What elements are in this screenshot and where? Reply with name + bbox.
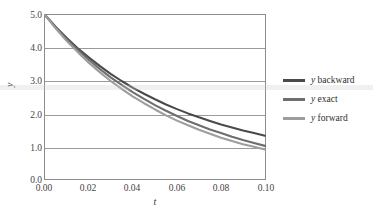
legend-label-y-exact: y exact [311, 94, 338, 105]
series-lines [45, 15, 265, 179]
legend-swatch-y-exact [283, 98, 305, 101]
xtick-label-3: 0.06 [157, 183, 197, 193]
ytick-label-1: 1.0 [30, 143, 42, 153]
y-axis-label: y [4, 83, 15, 87]
legend-item-y-backward: y backward [283, 72, 371, 88]
line-y-backward [45, 15, 265, 136]
line-y-forward [45, 15, 265, 149]
legend-text-y-exact: exact [315, 94, 337, 104]
legend-swatch-y-forward [283, 117, 305, 120]
line-y-exact [45, 15, 265, 146]
legend-label-y-backward: y backward [311, 75, 355, 86]
plot-area [44, 14, 266, 180]
legend-item-y-forward: y forward [283, 110, 371, 126]
ytick-label-3: 3.0 [30, 76, 42, 86]
legend-item-y-exact: y exact [283, 91, 371, 107]
ytick-label-5: 5.0 [30, 10, 42, 20]
legend-text-y-backward: backward [315, 75, 354, 85]
chart-figure: 5.0 4.0 3.0 2.0 1.0 0.0 0.00 0.02 0.04 0… [0, 0, 373, 216]
ytick-label-4: 4.0 [30, 43, 42, 53]
xtick-label-2: 0.04 [112, 183, 152, 193]
chart-legend: y backward y exact y forward [283, 72, 371, 129]
legend-swatch-y-backward [283, 79, 305, 82]
xtick-label-4: 0.08 [201, 183, 241, 193]
legend-label-y-forward: y forward [311, 113, 348, 124]
x-axis-label: t [44, 196, 266, 207]
ytick-label-2: 2.0 [30, 110, 42, 120]
xtick-label-5: 0.10 [246, 183, 286, 193]
xtick-label-0: 0.00 [24, 183, 64, 193]
legend-text-y-forward: forward [315, 113, 347, 123]
xtick-label-1: 0.02 [68, 183, 108, 193]
